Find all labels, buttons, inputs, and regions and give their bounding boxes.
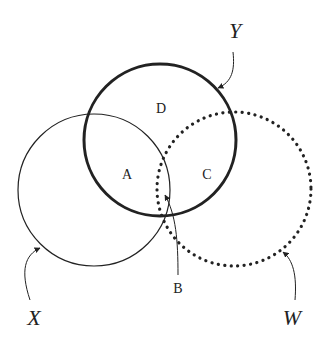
circle-w [157,112,311,266]
arrow-w [283,252,296,300]
set-label-y: Y [229,18,244,43]
venn-diagram: D A C B Y X W [0,0,324,348]
arrow-y [218,52,234,88]
region-label-b: B [173,281,182,296]
region-label-c: C [202,167,211,182]
arrow-b [165,195,178,275]
set-label-x: X [26,305,42,330]
set-label-w: W [283,305,303,330]
region-label-a: A [122,167,133,182]
circle-y [84,64,236,216]
arrow-x [25,248,40,300]
circle-x [18,114,170,266]
region-label-d: D [156,101,166,116]
